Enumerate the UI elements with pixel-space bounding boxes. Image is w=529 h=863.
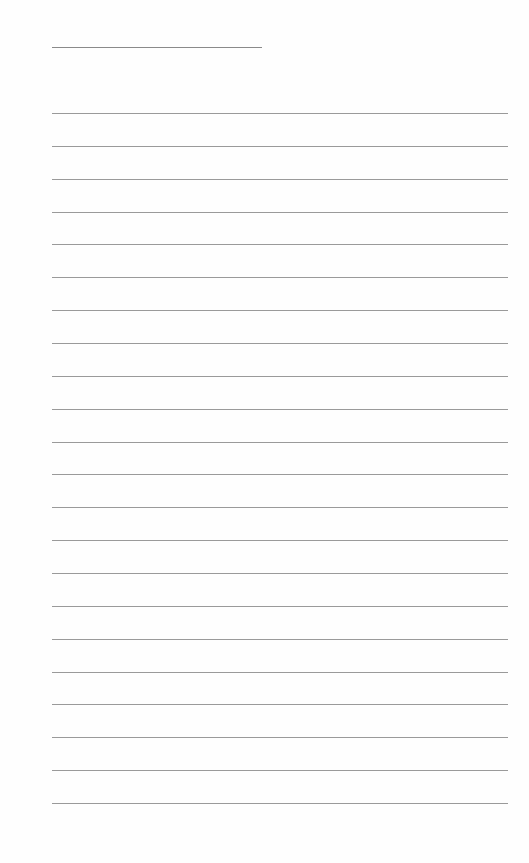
ruled-line: [52, 704, 508, 705]
lined-paper-page: [0, 0, 529, 863]
ruled-line: [52, 474, 508, 475]
ruled-line: [52, 277, 508, 278]
ruled-line: [52, 376, 508, 377]
ruled-line: [52, 573, 508, 574]
ruled-line: [52, 639, 508, 640]
ruled-line: [52, 409, 508, 410]
title-line: [52, 47, 262, 48]
ruled-line: [52, 343, 508, 344]
ruled-line: [52, 179, 508, 180]
ruled-line: [52, 606, 508, 607]
ruled-line: [52, 540, 508, 541]
ruled-line: [52, 244, 508, 245]
ruled-line: [52, 803, 508, 804]
ruled-line: [52, 507, 508, 508]
ruled-line: [52, 310, 508, 311]
ruled-line: [52, 442, 508, 443]
ruled-line: [52, 212, 508, 213]
ruled-line: [52, 770, 508, 771]
ruled-line: [52, 113, 508, 114]
ruled-line: [52, 146, 508, 147]
ruled-line: [52, 672, 508, 673]
ruled-line: [52, 737, 508, 738]
